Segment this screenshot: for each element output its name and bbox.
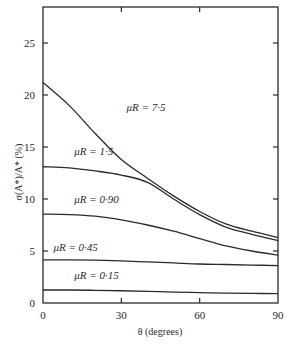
- curve-series-3: [43, 260, 278, 266]
- y-tick-label: 15: [24, 141, 36, 153]
- y-tick-label: 25: [24, 37, 36, 49]
- curve-series-4: [43, 290, 278, 294]
- x-axis-label: θ (degrees): [138, 326, 183, 338]
- x-tick-label: 90: [273, 309, 285, 321]
- y-axis-label: σ(A*)/A* (%): [13, 144, 25, 201]
- curve-labels: μR = 7·5μR = 1·5μR = 0·90μR = 0·45μR = 0…: [52, 101, 166, 281]
- curve-label: μR = 0·15: [73, 269, 119, 281]
- curve-label: μR = 0·90: [73, 193, 119, 205]
- curve-label: μR = 0·45: [52, 241, 98, 253]
- curve-label: μR = 1·5: [73, 145, 113, 157]
- y-tick-label: 5: [30, 245, 36, 257]
- curves: [43, 83, 278, 294]
- y-tick-label: 10: [24, 193, 36, 205]
- x-tick-label: 30: [116, 309, 128, 321]
- chart: 05101520250306090 μR = 7·5μR = 1·5μR = 0…: [0, 0, 290, 347]
- x-tick-label: 60: [194, 309, 206, 321]
- curve-label: μR = 7·5: [126, 101, 166, 113]
- y-tick-label: 20: [24, 89, 36, 101]
- x-tick-label: 0: [40, 309, 46, 321]
- axis-ticks: 05101520250306090: [24, 7, 284, 321]
- y-tick-label: 0: [30, 297, 36, 309]
